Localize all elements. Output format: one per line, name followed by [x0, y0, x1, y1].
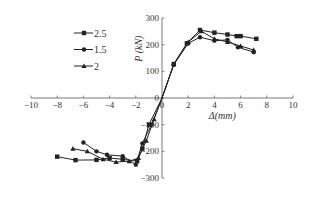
y-tick-label: −300	[140, 173, 159, 183]
x-tick-label: −8	[52, 100, 62, 110]
square-marker	[212, 30, 216, 34]
legend-item: 2.5	[74, 28, 107, 39]
legend-label: 1.5	[94, 44, 107, 55]
y-tick-label: 200	[146, 40, 160, 50]
triangle-marker	[212, 36, 217, 41]
legend-item: 1.5	[74, 44, 107, 55]
origin-label: 0	[155, 93, 160, 103]
square-marker	[238, 34, 242, 38]
square-marker	[225, 32, 229, 36]
legend-label: 2	[94, 61, 99, 72]
x-tick-label: 2	[186, 100, 191, 110]
y-tick-label: 100	[146, 66, 160, 76]
circle-icon	[82, 47, 86, 51]
circle-marker	[81, 140, 85, 144]
y-axis-label: P (kN)	[133, 35, 145, 63]
x-tick-label: −4	[105, 100, 115, 110]
square-icon	[82, 31, 86, 35]
square-marker	[94, 158, 98, 162]
square-marker	[55, 154, 59, 158]
x-axis-label: Δ(mm)	[208, 110, 237, 122]
x-tick-label: 6	[238, 100, 243, 110]
x-tick-label: 8	[265, 100, 270, 110]
circle-marker	[105, 153, 109, 157]
triangle-marker	[70, 146, 75, 151]
legend-label: 2.5	[94, 28, 107, 39]
x-tick-label: 10	[289, 100, 299, 110]
circle-marker	[121, 154, 125, 158]
square-marker	[254, 37, 258, 41]
square-marker	[73, 158, 77, 162]
x-tick-label: −10	[24, 100, 39, 110]
x-tick-label: −2	[131, 100, 141, 110]
square-marker	[234, 34, 238, 38]
circle-marker	[198, 35, 202, 39]
legend: 2.51.52	[74, 28, 107, 72]
y-tick-label: 300	[146, 13, 160, 23]
x-tick-label: −6	[79, 100, 89, 110]
circle-marker	[94, 149, 98, 153]
circle-marker	[134, 162, 138, 166]
legend-item: 2	[74, 61, 99, 72]
x-tick-label: 4	[212, 100, 217, 110]
hysteresis-skeleton-chart: −10−8−6−4−20246810−300−200−1001002003000…	[0, 0, 313, 199]
